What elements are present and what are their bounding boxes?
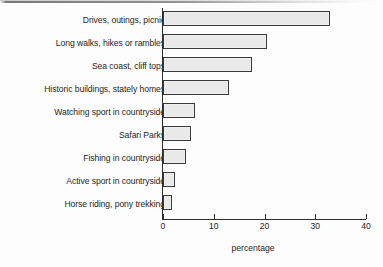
x-axis-tick-label: 30 [310, 221, 320, 231]
category-label: Long walks, hikes or rambles [56, 38, 165, 48]
x-axis-tick [163, 214, 164, 219]
category-label: Safari Parks [119, 130, 165, 140]
x-axis-tick [265, 214, 266, 219]
bar [163, 149, 186, 164]
bar [163, 126, 191, 141]
x-axis-tick [315, 214, 316, 219]
bar-chart-plot-area: Drives, outings, picnic Long walks, hike… [0, 0, 383, 267]
category-label: Drives, outings, picnic [83, 15, 165, 25]
chart-page: Drives, outings, picnic Long walks, hike… [0, 0, 383, 267]
bar [163, 172, 175, 187]
category-label: Historic buildings, stately homes [44, 84, 165, 94]
category-label: Active sport in countryside [66, 176, 165, 186]
x-axis-tick-label: 40 [361, 221, 371, 231]
bar [163, 103, 195, 118]
x-axis-tick-label: 20 [260, 221, 270, 231]
x-axis-tick [366, 214, 367, 219]
category-label: Fishing in countryside [83, 153, 165, 163]
x-axis-tick-label: 0 [161, 221, 166, 231]
category-label: Sea coast, cliff tops [92, 61, 165, 71]
x-axis-title: percentage [231, 243, 274, 253]
bar [163, 34, 267, 49]
bar [163, 80, 229, 95]
bar [163, 57, 252, 72]
bar [163, 11, 330, 26]
x-axis-tick [214, 214, 215, 219]
x-axis-tick-label: 10 [209, 221, 219, 231]
y-axis-line [162, 8, 163, 219]
category-label: Horse riding, pony trekking [64, 199, 165, 209]
category-label: Watching sport in countryside [54, 107, 165, 117]
bar [163, 195, 172, 210]
